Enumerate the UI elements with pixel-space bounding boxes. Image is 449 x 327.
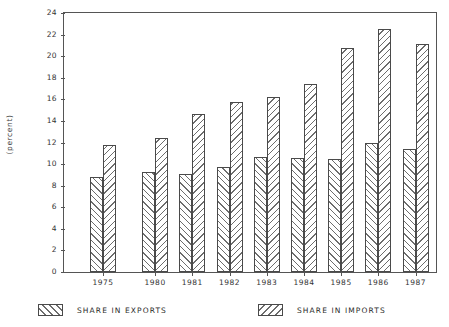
y-tick-mark — [61, 13, 65, 14]
y-tick-mark — [61, 35, 65, 36]
bar-imports-1986 — [378, 29, 391, 272]
bar-imports-1981 — [192, 114, 205, 272]
legend-label-exports: SHARE IN EXPORTS — [77, 306, 167, 315]
x-tick-mark — [192, 272, 193, 276]
bar-exports-1982 — [217, 167, 230, 272]
y-tick-label: 16 — [31, 94, 57, 103]
x-tick-label: 1987 — [395, 278, 437, 287]
x-tick-label: 1980 — [134, 278, 176, 287]
x-tick-label: 1985 — [320, 278, 362, 287]
y-tick-mark — [61, 99, 65, 100]
x-tick-label: 1986 — [357, 278, 399, 287]
bar-exports-1981 — [179, 174, 192, 272]
y-axis-label: (percent) — [5, 100, 14, 170]
y-tick-label: 0 — [31, 267, 57, 276]
bar-chart: (percent) 024681012141618202224 19751980… — [0, 0, 449, 327]
y-tick-label: 6 — [31, 202, 57, 211]
bar-imports-1985 — [341, 48, 354, 272]
x-tick-mark — [267, 272, 268, 276]
legend-swatch-exports-icon — [38, 304, 63, 316]
y-tick-mark — [61, 229, 65, 230]
bar-exports-1980 — [142, 172, 155, 272]
y-tick-label: 2 — [31, 245, 57, 254]
bar-imports-1982 — [230, 102, 243, 273]
y-tick-mark — [61, 143, 65, 144]
x-tick-mark — [230, 272, 231, 276]
y-tick-label: 14 — [31, 116, 57, 125]
bar-exports-1975 — [90, 177, 103, 272]
bar-imports-1987 — [416, 44, 429, 272]
y-tick-mark — [61, 121, 65, 122]
bar-exports-1987 — [403, 149, 416, 272]
y-tick-mark — [61, 250, 65, 251]
bar-exports-1984 — [291, 158, 304, 272]
x-tick-label: 1981 — [171, 278, 213, 287]
y-tick-label: 20 — [31, 51, 57, 60]
y-tick-label: 8 — [31, 181, 57, 190]
x-tick-mark — [378, 272, 379, 276]
x-tick-mark — [103, 272, 104, 276]
bar-exports-1986 — [365, 143, 378, 273]
y-tick-label: 24 — [31, 8, 57, 17]
y-tick-mark — [61, 207, 65, 208]
x-tick-mark — [155, 272, 156, 276]
x-tick-mark — [304, 272, 305, 276]
y-tick-mark — [61, 78, 65, 79]
legend-item-exports: SHARE IN EXPORTS — [38, 304, 167, 316]
x-tick-label: 1982 — [209, 278, 251, 287]
y-tick-label: 12 — [31, 138, 57, 147]
bar-exports-1985 — [328, 159, 341, 272]
legend-label-imports: SHARE IN IMPORTS — [297, 306, 386, 315]
legend-swatch-imports-icon — [258, 304, 283, 316]
y-tick-mark — [61, 186, 65, 187]
y-tick-label: 22 — [31, 30, 57, 39]
bar-imports-1975 — [103, 145, 116, 272]
x-tick-label: 1983 — [246, 278, 288, 287]
bar-imports-1983 — [267, 97, 280, 272]
legend-item-imports: SHARE IN IMPORTS — [258, 304, 386, 316]
plot-area: 024681012141618202224 197519801981198219… — [63, 12, 437, 273]
y-tick-mark — [61, 56, 65, 57]
bar-imports-1984 — [304, 84, 317, 272]
bar-exports-1983 — [254, 157, 267, 272]
x-tick-mark — [341, 272, 342, 276]
x-tick-label: 1984 — [283, 278, 325, 287]
chart-legend: SHARE IN EXPORTS SHARE IN IMPORTS — [0, 300, 449, 327]
x-tick-mark — [416, 272, 417, 276]
y-tick-label: 4 — [31, 224, 57, 233]
y-tick-label: 10 — [31, 159, 57, 168]
bar-imports-1980 — [155, 138, 168, 272]
x-tick-label: 1975 — [82, 278, 124, 287]
y-tick-mark — [61, 164, 65, 165]
y-tick-label: 18 — [31, 73, 57, 82]
y-tick-mark — [61, 272, 65, 273]
